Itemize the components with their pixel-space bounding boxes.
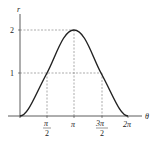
y-axis-label: r xyxy=(17,5,21,14)
y-tick-label-2: 2 xyxy=(10,26,14,35)
x-tick-label-pi-over-2-den: 2 xyxy=(45,129,49,138)
x-tick-label-3pi-over-2-den: 2 xyxy=(100,129,104,138)
x-axis-label: θ xyxy=(145,112,149,121)
x-tick-label-pi-over-2-num: π xyxy=(44,119,49,128)
x-tick-label-2pi: 2π xyxy=(123,120,132,129)
chart: r 2 1 π 2 π 3π 2 2π θ xyxy=(0,0,157,141)
tick-marks xyxy=(18,30,128,118)
x-tick-label-pi: π xyxy=(71,120,76,129)
x-tick-label-3pi-over-2-num: 3π xyxy=(95,119,105,128)
y-tick-label-1: 1 xyxy=(10,69,14,78)
